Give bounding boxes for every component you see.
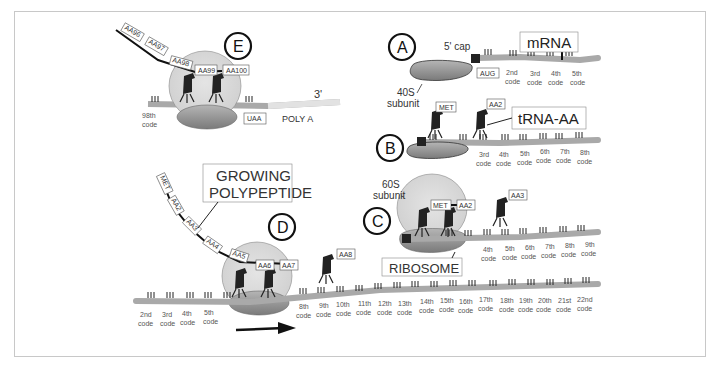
code-number: 2nd [140,311,152,318]
code-number: 4th [551,70,561,77]
small-subunit [177,105,237,129]
code-number: 18th [500,297,514,304]
aa-label: AA2 [489,101,502,108]
code-word: code [439,306,454,313]
code-number: 2nd [506,69,518,76]
aa-label: AA8 [339,251,352,258]
trna-icon [493,197,508,227]
code-word: code [561,251,576,258]
step-b: B MET AA2 tRNA-AA 3rd code 4th code 5th … [377,99,598,167]
aa-label: AA7 [282,262,295,269]
poly-a-label: POLY A [282,114,313,124]
subunit-label: 60S [382,179,400,190]
code-number: 7th [545,243,555,250]
code-word: code [356,309,371,316]
subunit-label: subunit [387,98,419,109]
polypeptide-label: GROWING [216,167,291,184]
code-word: code [577,305,592,312]
aa-label: AA2 [459,202,472,209]
code-number: 21st [558,297,571,304]
step-a: A 5' cap mRNA AUG 40S subunit 2nd code 3… [387,32,598,109]
translation-diagram: AA96 AA97 AA98 AA99 AA100 E 3' POLY A UA… [0,0,714,366]
code-word: code [527,79,542,86]
code-number: 8th [565,242,575,249]
step-c: MET AA2 AA3 60S subunit C RIBOSOME 4th c… [364,174,598,276]
code-word: code [397,309,412,316]
code-number: 5th [204,309,214,316]
code-number: 9th [319,302,329,309]
code-word: code [517,159,532,166]
poly-a-tail [268,102,340,106]
code-number: 5th [505,245,515,252]
trna-icon [473,109,488,139]
code-word: code [481,255,496,262]
code-word: code [502,254,517,261]
small-subunit [407,142,468,159]
code-number: 6th [525,244,535,251]
code-word: code [548,79,563,86]
cap-label: 5' cap [444,41,471,52]
code-word: code [518,306,533,313]
code-number: 98th [142,112,156,119]
start-codon-label: AUG [480,70,495,77]
trna-aa-label: tRNA-AA [518,110,579,127]
code-word: code [336,310,351,317]
code-word: code [577,158,592,165]
five-prime-cap [417,137,426,146]
code-word: code [419,307,434,314]
code-word: code [377,309,392,316]
code-word: code [499,306,514,313]
code-number: 17th [479,296,493,303]
mrna-label: mRNA [527,34,571,51]
code-number: 3rd [530,70,540,77]
code-number: 16th [459,298,473,305]
stop-codon-label: UAA [247,115,262,122]
code-number: 8th [299,303,309,310]
code-number: 5th [520,150,530,157]
subunit-label: subunit [373,190,405,201]
code-word: code [180,319,195,326]
step-label: E [233,38,244,55]
code-number: 12th [378,300,392,307]
code-number: 3rd [479,151,489,158]
code-number: 3rd [162,311,172,318]
aa-label: AA3 [511,192,524,199]
aa-label: AA99 [198,67,215,74]
code-word: code [570,79,585,86]
code-number: 4th [182,310,192,317]
direction-arrow-icon [236,328,284,330]
code-number: 4th [499,151,509,158]
aa-label: AA6 [258,262,271,269]
code-word: code [556,306,571,313]
step-label: D [277,219,289,236]
code-word: code [478,305,493,312]
code-word: code [521,253,536,260]
code-word: code [458,307,473,314]
aa-label: AA100 [226,67,247,74]
code-word: code [581,250,596,257]
code-number: 4th [483,246,493,253]
code-number: 11th [358,300,371,307]
code-word: code [203,318,218,325]
code-number: 5th [572,70,582,77]
code-word: code [138,320,153,327]
code-word: code [316,311,331,318]
step-label: A [397,39,408,56]
code-number: 8th [580,149,590,156]
step-label: B [385,140,396,157]
small-subunit [410,60,472,80]
code-word: code [476,160,491,167]
code-word: code [296,312,311,319]
aa-label: MET [433,202,449,209]
code-number: 14th [420,298,434,305]
code-word: code [536,306,551,313]
code-number: 13th [398,300,412,307]
step-e: AA96 AA97 AA98 AA99 AA100 E 3' POLY A UA… [116,23,340,129]
ribosome-label: RIBOSOME [389,261,459,276]
trna-icon [319,254,334,284]
aa-label: MET [439,104,455,111]
code-word: code [556,157,571,164]
three-prime-label: 3' [314,88,322,100]
code-number: 22nd [577,296,593,303]
mrna-strand [477,57,598,60]
